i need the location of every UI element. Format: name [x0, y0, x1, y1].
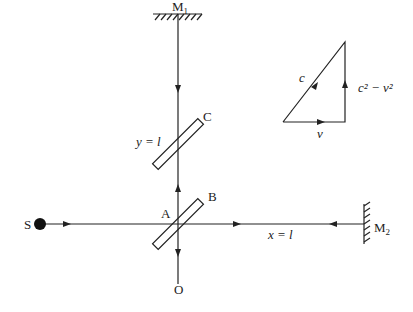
- source-dot: [34, 218, 46, 230]
- plate-b-label: B: [208, 189, 217, 204]
- plate-c-label: C: [203, 109, 212, 124]
- arrow-down-icon: [175, 85, 181, 93]
- arrow-right-icon: [317, 119, 325, 125]
- mirror-m2: [364, 202, 370, 244]
- arrow-right-icon: [63, 221, 71, 227]
- arrow-left-icon: [329, 221, 337, 227]
- velocity-triangle: [283, 42, 348, 125]
- observer-label: O: [174, 282, 183, 297]
- arrow-up-icon: [175, 184, 181, 192]
- mirror-m1-label: M1: [172, 0, 188, 16]
- hypotenuse-label: c: [299, 70, 305, 85]
- source-label: S: [24, 217, 31, 232]
- base-label: v: [317, 126, 323, 141]
- arrow-right-icon: [233, 221, 241, 227]
- mirror-m2-label: M2: [374, 220, 390, 237]
- point-a-label: A: [161, 206, 171, 221]
- arrow-down-icon: [175, 249, 181, 257]
- arrow-hypotenuse-icon: [311, 82, 318, 90]
- arm-y-label: y = l: [134, 134, 161, 149]
- arrow-up-icon: [342, 80, 348, 88]
- arm-x-label: x = l: [267, 227, 293, 242]
- vertical-label: c² − v²: [358, 80, 394, 95]
- interferometer-diagram: M1 C y = l B A x = l S M2 O: [0, 0, 413, 312]
